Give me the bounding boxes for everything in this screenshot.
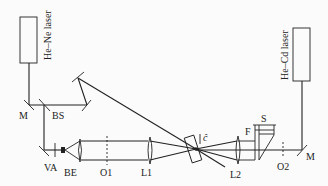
hecd-laser-box bbox=[293, 28, 310, 81]
beam-diagonal-exit bbox=[196, 149, 225, 167]
hene-laser-label: He–Ne laser bbox=[42, 10, 53, 60]
beam-diagonal-to-crystal bbox=[78, 78, 196, 149]
label-f: F bbox=[245, 126, 251, 137]
hecd-laser-label: He–Cd laser bbox=[279, 30, 290, 80]
label-be: BE bbox=[64, 167, 77, 178]
diverge-bottom bbox=[196, 149, 237, 160]
slit-diagonal bbox=[259, 135, 274, 160]
label-o1: O1 bbox=[100, 167, 112, 178]
label-c-axis: ĉ bbox=[203, 132, 208, 143]
label-s: S bbox=[261, 113, 267, 124]
be-lens-large bbox=[79, 139, 81, 162]
label-o2: O2 bbox=[277, 161, 289, 172]
label-va: VA bbox=[44, 162, 58, 173]
be-lens-small bbox=[61, 147, 65, 153]
diagram-canvas: He–Ne laser M BS VA BE O1 L1 ĉ L2 F bbox=[0, 0, 328, 186]
optical-setup-diagram: He–Ne laser M BS VA BE O1 L1 ĉ L2 F bbox=[0, 0, 328, 186]
label-l1: L1 bbox=[141, 167, 152, 178]
label-m-right: M bbox=[306, 151, 315, 162]
label-bs: BS bbox=[52, 110, 64, 121]
hene-laser-box bbox=[20, 17, 37, 63]
label-l2: L2 bbox=[230, 169, 241, 180]
be-cone-bottom bbox=[65, 150, 80, 160]
label-m-left: M bbox=[19, 110, 28, 121]
be-cone-top bbox=[65, 141, 80, 150]
